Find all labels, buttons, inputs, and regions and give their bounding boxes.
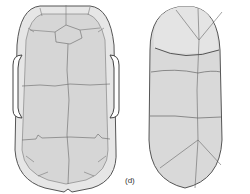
turtle-shell-figure: (d) (0, 0, 250, 194)
shell-diagrams (0, 0, 250, 194)
panel-label: (d) (125, 176, 135, 185)
left-shell-diagram (13, 5, 119, 192)
right-shell-diagram (149, 7, 222, 188)
